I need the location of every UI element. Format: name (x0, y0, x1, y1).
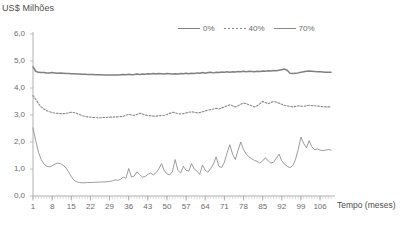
x-tick-label: 50 (158, 202, 176, 211)
series-line-70pct (33, 128, 331, 183)
y-tick-label: 2,0 (3, 137, 25, 146)
plot-area (0, 0, 409, 225)
y-tick-label: 4,0 (3, 83, 25, 92)
x-tick-label: 43 (139, 202, 157, 211)
x-tick-label: 85 (254, 202, 272, 211)
x-tick-label: 99 (292, 202, 310, 211)
axis-ticks (30, 34, 331, 201)
data-series (33, 67, 331, 183)
x-tick-label: 36 (120, 202, 138, 211)
series-line-40pct (33, 96, 331, 118)
x-tick-label: 1 (24, 202, 42, 211)
y-tick-label: 0,0 (3, 191, 25, 200)
x-tick-label: 106 (311, 202, 329, 211)
x-tick-label: 8 (43, 202, 61, 211)
y-tick-label: 3,0 (3, 110, 25, 119)
x-tick-label: 78 (235, 202, 253, 211)
x-tick-label: 57 (177, 202, 195, 211)
chart-container: US$ Milhões 0% 40% 70% 6,05,04,03,02,01,… (0, 0, 409, 225)
x-tick-label: 29 (101, 202, 119, 211)
x-axis-title: Tempo (meses) (337, 200, 396, 210)
y-tick-label: 6,0 (3, 29, 25, 38)
y-tick-label: 1,0 (3, 164, 25, 173)
x-tick-label: 64 (196, 202, 214, 211)
x-tick-label: 15 (62, 202, 80, 211)
x-tick-label: 22 (81, 202, 99, 211)
series-line-0pct (33, 67, 331, 75)
x-tick-label: 92 (273, 202, 291, 211)
y-tick-label: 5,0 (3, 56, 25, 65)
x-tick-label: 71 (215, 202, 233, 211)
